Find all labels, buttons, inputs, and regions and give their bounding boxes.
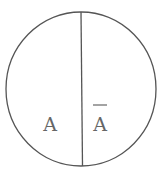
region-label-a-complement: A <box>92 113 107 135</box>
divider-line <box>81 12 83 166</box>
complement-diagram: A A <box>0 0 161 175</box>
region-label-a: A <box>42 113 57 135</box>
